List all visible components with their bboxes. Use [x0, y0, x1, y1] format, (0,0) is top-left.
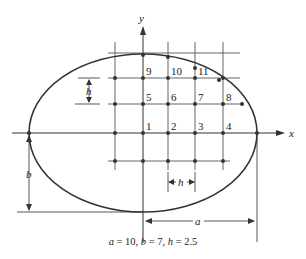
b-label: b — [26, 168, 32, 180]
node-label-10: 10 — [171, 65, 183, 77]
x-axis-label: x — [288, 127, 294, 139]
node-label-8: 8 — [226, 91, 232, 103]
caption-b-value: 7 — [157, 236, 162, 247]
b-dimension — [17, 135, 143, 212]
node-label-3: 3 — [198, 120, 204, 132]
ellipse-grid-diagram: 1 2 3 4 5 6 7 8 9 10 11 y x h h b a a = … — [0, 0, 306, 259]
node-label-9: 9 — [146, 65, 152, 77]
grid-vertical-lines — [115, 42, 223, 170]
caption-a-value: 10 — [125, 236, 136, 247]
node-label-4: 4 — [226, 120, 232, 132]
node-label-11: 11 — [198, 65, 209, 77]
caption-a-symbol: a — [109, 236, 114, 247]
caption-h-symbol: h — [168, 236, 173, 247]
a-label: a — [195, 215, 201, 227]
node-label-5: 5 — [146, 91, 152, 103]
caption-h-value: 2.5 — [184, 236, 197, 247]
node-label-2: 2 — [171, 120, 177, 132]
caption-b-symbol: b — [141, 236, 146, 247]
h-horizontal-label: h — [178, 176, 184, 188]
a-dimension — [145, 133, 257, 242]
y-axis-label: y — [138, 12, 144, 24]
node-label-1: 1 — [146, 120, 152, 132]
node-label-6: 6 — [171, 91, 177, 103]
h-vertical-label: h — [86, 85, 92, 97]
parameters-caption: a = 10, b = 7, h = 2.5 — [0, 236, 306, 247]
node-label-7: 7 — [198, 91, 204, 103]
